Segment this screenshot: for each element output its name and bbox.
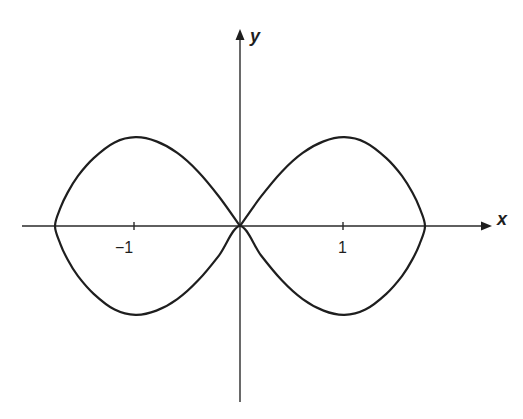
y-axis-arrow-icon bbox=[236, 29, 245, 40]
x-tick-label-pos-one: 1 bbox=[338, 240, 347, 256]
x-axis-label: x bbox=[497, 210, 507, 228]
x-tick-label-neg-one: −1 bbox=[115, 240, 133, 256]
x-axis-arrow-icon bbox=[481, 222, 492, 231]
y-axis-label: y bbox=[250, 27, 260, 45]
figure-eight-plot bbox=[0, 0, 523, 419]
